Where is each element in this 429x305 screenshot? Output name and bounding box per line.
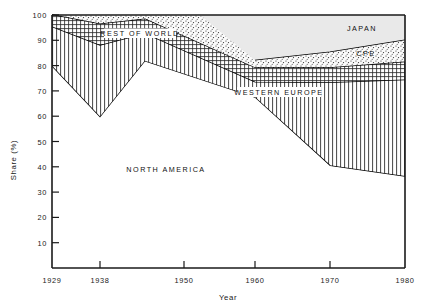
y-tick-70: 70	[37, 87, 47, 96]
chart-container: 100 90 80 70 60 50 40 30 20 10 1929 1938…	[0, 0, 429, 305]
x-tick-1929: 1929	[42, 276, 61, 285]
y-tick-60: 60	[37, 112, 47, 121]
y-axis-tick-labels: 100 90 80 70 60 50 40 30 20 10	[33, 11, 47, 248]
y-tick-20: 20	[37, 213, 47, 222]
label-western-europe-text: WESTERN EUROPE	[234, 88, 323, 97]
x-tick-1980: 1980	[395, 276, 414, 285]
y-tick-30: 30	[37, 188, 47, 197]
stacked-area-chart: 100 90 80 70 60 50 40 30 20 10 1929 1938…	[0, 0, 429, 305]
y-tick-90: 90	[37, 36, 47, 45]
label-north-america-text: NORTH AMERICA	[126, 165, 205, 174]
label-cpe: CPE	[356, 49, 375, 58]
y-tick-50: 50	[37, 138, 47, 147]
y-tick-40: 40	[37, 163, 47, 172]
x-tick-1938: 1938	[90, 276, 109, 285]
label-cpe-text: CPE	[356, 49, 375, 58]
x-tick-1950: 1950	[174, 276, 193, 285]
y-tick-10: 10	[37, 239, 47, 248]
label-western-europe: WESTERN EUROPE	[234, 87, 323, 97]
label-rest-of-world: REST OF WORLD	[100, 29, 179, 39]
label-japan-text: JAPAN	[347, 24, 377, 33]
label-north-america: NORTH AMERICA	[126, 165, 205, 174]
y-tick-80: 80	[37, 62, 47, 71]
y-tick-100: 100	[33, 11, 47, 20]
x-axis-tick-labels: 1929 1938 1950 1960 1970 1980	[42, 276, 414, 285]
y-axis-title: Share (%)	[9, 140, 18, 181]
x-axis-title: Year	[219, 293, 237, 302]
x-tick-1970: 1970	[320, 276, 339, 285]
label-rest-of-world-text: REST OF WORLD	[100, 29, 179, 38]
x-tick-1960: 1960	[245, 276, 264, 285]
label-japan: JAPAN	[340, 22, 384, 33]
